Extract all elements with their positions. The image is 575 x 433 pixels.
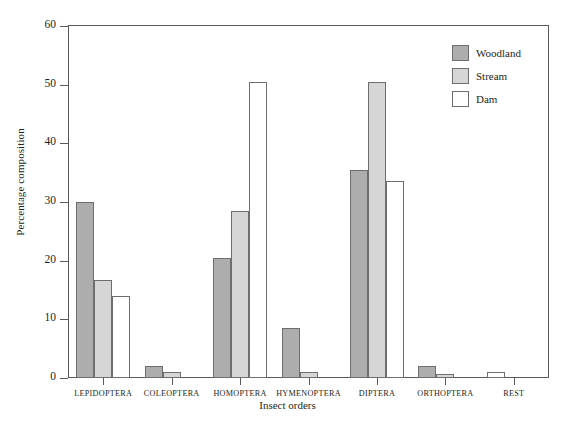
y-axis-tick: 20	[60, 261, 68, 262]
y-axis-tick-label: 50	[45, 77, 57, 89]
bar-stream-diptera[interactable]	[368, 82, 386, 378]
x-axis-tick-label: REST	[503, 389, 524, 398]
y-axis-tick-label: 60	[45, 18, 57, 30]
y-axis-title: Percentage composition	[14, 22, 26, 342]
y-axis-tick-label: 10	[45, 311, 57, 323]
x-axis-tick	[445, 378, 446, 385]
bar-group: HYMENOPTERA	[282, 26, 336, 378]
y-axis-tick-label: 20	[45, 253, 57, 265]
bar-group-bars	[350, 26, 404, 378]
legend-label-woodland: Woodland	[476, 47, 521, 59]
x-axis-tick	[103, 378, 104, 385]
chart-legend: WoodlandStreamDam	[452, 41, 521, 110]
y-axis-tick: 50	[60, 85, 68, 86]
bar-dam-rest[interactable]	[487, 372, 505, 378]
bar-dam-homoptera[interactable]	[249, 82, 267, 378]
bar-group: COLEOPTERA	[145, 26, 199, 378]
bar-woodland-coleoptera[interactable]	[145, 366, 163, 378]
legend-label-stream: Stream	[476, 70, 507, 82]
x-axis-tick-label: LEPIDOPTERA	[74, 389, 132, 398]
x-axis-tick-label: COLEOPTERA	[144, 389, 200, 398]
x-axis-title: Insect orders	[0, 399, 575, 411]
bar-woodland-homoptera[interactable]	[213, 258, 231, 378]
legend-label-dam: Dam	[476, 93, 497, 105]
legend-item-dam[interactable]: Dam	[452, 87, 521, 110]
x-axis-tick	[309, 378, 310, 385]
y-axis-tick: 60	[60, 26, 68, 27]
legend-swatch-woodland	[452, 45, 469, 61]
bar-dam-lepidoptera[interactable]	[112, 296, 130, 378]
legend-swatch-dam	[452, 91, 469, 107]
x-axis-tick-label: DIPTERA	[359, 389, 395, 398]
legend-item-woodland[interactable]: Woodland	[452, 41, 521, 64]
y-axis-tick-label: 40	[45, 135, 57, 147]
bar-group-bars	[76, 26, 130, 378]
y-axis-tick: 0	[60, 378, 68, 379]
bar-woodland-lepidoptera[interactable]	[76, 202, 94, 378]
legend-item-stream[interactable]: Stream	[452, 64, 521, 87]
bar-woodland-hymenoptera[interactable]	[282, 328, 300, 378]
y-axis-tick-label: 30	[45, 194, 57, 206]
legend-swatch-stream	[452, 68, 469, 84]
bar-woodland-orthoptera[interactable]	[418, 366, 436, 378]
x-axis-tick-label: ORTHOPTERA	[417, 389, 473, 398]
x-axis-tick	[240, 378, 241, 385]
x-axis-tick	[172, 378, 173, 385]
bar-group-bars	[282, 26, 336, 378]
bar-group: LEPIDOPTERA	[76, 26, 130, 378]
bar-woodland-diptera[interactable]	[350, 170, 368, 378]
x-axis-tick-label: HOMOPTERA	[213, 389, 266, 398]
bar-stream-homoptera[interactable]	[231, 211, 249, 378]
y-axis-tick: 10	[60, 319, 68, 320]
bar-dam-diptera[interactable]	[386, 181, 404, 378]
y-axis-tick: 40	[60, 143, 68, 144]
bar-stream-lepidoptera[interactable]	[94, 280, 112, 378]
bar-chart-figure: Percentage composition 0102030405060 LEP…	[0, 0, 575, 433]
bar-group-bars	[145, 26, 199, 378]
y-axis-tick: 30	[60, 202, 68, 203]
bar-group: DIPTERA	[350, 26, 404, 378]
y-axis-tick-label: 0	[50, 370, 56, 382]
x-axis-tick-label: HYMENOPTERA	[276, 389, 341, 398]
x-axis-tick	[514, 378, 515, 385]
bar-group: HOMOPTERA	[213, 26, 267, 378]
x-axis-tick	[377, 378, 378, 385]
bar-group-bars	[213, 26, 267, 378]
